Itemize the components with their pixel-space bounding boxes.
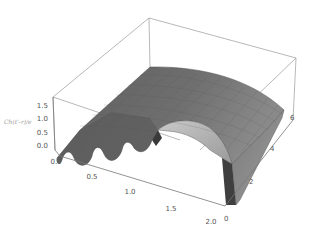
x-axis-ticks: 0.0 0.5 1.0 1.5 2.0 — [50, 158, 216, 226]
y-tick: 4 — [270, 145, 275, 153]
surface-plot-3d: 1.5 1.0 0.5 0.0 Ch(t'-r)/e 0.0 0.5 1.0 1… — [0, 0, 310, 243]
z-axis-label: Ch(t'-r)/e — [4, 118, 32, 125]
z-axis-ticks: 1.5 1.0 0.5 0.0 — [37, 102, 48, 150]
z-tick: 0.0 — [37, 142, 48, 150]
z-tick: 0.5 — [37, 129, 48, 137]
z-tick: 1.0 — [37, 115, 48, 123]
z-tick: 1.5 — [37, 102, 48, 110]
y-tick: 0 — [224, 215, 228, 223]
y-tick: 2 — [249, 178, 253, 186]
y-tick: 6 — [290, 114, 295, 122]
x-tick: 0.5 — [86, 173, 97, 181]
x-tick: 1.5 — [165, 205, 176, 213]
x-tick: 0.0 — [50, 158, 61, 166]
x-tick: 1.0 — [124, 188, 135, 196]
x-tick: 2.0 — [205, 218, 216, 226]
